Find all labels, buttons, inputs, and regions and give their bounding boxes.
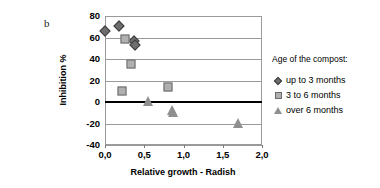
plot-area: -40-20020406080 0,00,51,01,52,0 <box>105 16 262 145</box>
data-point-square-icon <box>163 82 172 91</box>
legend-item-label: over 6 months <box>286 106 343 115</box>
x-axis-tick-label: 1,0 <box>177 150 190 160</box>
x-axis-tick-label: 2,0 <box>255 150 268 160</box>
legend-item[interactable]: up to 3 months <box>272 73 380 88</box>
x-axis-tick <box>144 145 145 148</box>
panel-letter: b <box>44 18 50 29</box>
legend-title: Age of the compost: <box>272 55 380 64</box>
legend: Age of the compost: up to 3 months3 to 6… <box>272 55 380 118</box>
y-axis-tick-label: 40 <box>89 54 100 64</box>
y-axis-tick-label: 60 <box>89 33 100 43</box>
x-axis-tick <box>184 145 185 148</box>
legend-items: up to 3 months3 to 6 monthsover 6 months <box>272 73 380 118</box>
legend-item[interactable]: over 6 months <box>272 103 380 118</box>
y-axis-tick-label: -20 <box>86 119 100 129</box>
legend-item-label: 3 to 6 months <box>286 91 341 100</box>
y-axis-tick-label: 80 <box>89 11 100 21</box>
x-axis-tick <box>262 145 263 148</box>
x-axis-tick <box>105 145 106 148</box>
x-axis-tick-label: 0,0 <box>98 150 111 160</box>
x-axis-tick-label: 0,5 <box>138 150 151 160</box>
y-axis-tick-label: 0 <box>95 97 100 107</box>
y-axis-title: Inhibition % <box>59 55 68 106</box>
diamond-icon <box>272 78 284 84</box>
x-axis-title: Relative growth - Radish <box>130 168 235 177</box>
x-axis-tick-label: 1,5 <box>216 150 229 160</box>
data-point-triangle-icon <box>143 96 153 106</box>
scatter-chart-figure: b Inhibition % Relative growth - Radish … <box>0 0 380 188</box>
gridline <box>105 81 262 82</box>
y-axis-tick-label: 20 <box>89 76 100 86</box>
legend-item[interactable]: 3 to 6 months <box>272 88 380 103</box>
gridline <box>105 16 262 17</box>
data-point-square-icon <box>118 87 127 96</box>
triangle-icon <box>272 107 284 114</box>
square-icon <box>272 92 284 99</box>
data-point-square-icon <box>126 60 135 69</box>
legend-item-label: up to 3 months <box>286 76 346 85</box>
data-point-triangle-icon <box>168 107 178 117</box>
zero-line <box>105 101 262 103</box>
x-axis-tick <box>223 145 224 148</box>
data-point-square-icon <box>121 34 130 43</box>
data-point-triangle-icon <box>233 118 243 128</box>
